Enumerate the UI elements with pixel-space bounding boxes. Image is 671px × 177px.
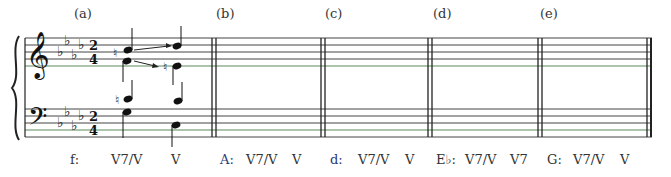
svg-text:♭: ♭ bbox=[78, 107, 85, 123]
svg-text:4: 4 bbox=[89, 123, 98, 138]
barlines bbox=[212, 38, 651, 137]
analysis-b-chord-2: V bbox=[292, 152, 301, 167]
time-signature: 24 24 bbox=[89, 38, 98, 138]
svg-text:♮: ♮ bbox=[113, 46, 117, 60]
analysis-a-chord-2: V bbox=[171, 152, 180, 167]
treble-staff bbox=[25, 38, 652, 66]
bass-clef-icon: 𝄢 bbox=[28, 102, 47, 137]
svg-text:♭: ♭ bbox=[78, 36, 85, 52]
analysis-d-key: E♭: bbox=[436, 152, 456, 167]
analysis-a-chord-1: V7/V bbox=[111, 152, 142, 167]
analysis-e-key: G: bbox=[547, 152, 562, 167]
svg-text:♭: ♭ bbox=[57, 114, 64, 130]
svg-text:2: 2 bbox=[89, 38, 98, 53]
svg-text:♮: ♮ bbox=[163, 60, 167, 74]
svg-text:♮: ♮ bbox=[115, 93, 119, 107]
treble-notes: ♮ ♮ bbox=[113, 26, 182, 85]
analysis-d-chord-2: V7 bbox=[510, 152, 528, 167]
svg-text:♭: ♭ bbox=[64, 32, 71, 48]
svg-text:♭: ♭ bbox=[71, 117, 78, 133]
analysis-e-chord-2: V bbox=[620, 152, 629, 167]
analysis-a-key: f: bbox=[70, 152, 79, 167]
analysis-e-chord-1: V7/V bbox=[573, 152, 604, 167]
analysis-c-key: d: bbox=[330, 152, 343, 167]
key-signature: ♭♭♭♭ ♭♭♭♭ bbox=[57, 32, 85, 133]
svg-text:♭: ♭ bbox=[64, 103, 71, 119]
analysis-c-chord-2: V bbox=[405, 152, 414, 167]
svg-text:2: 2 bbox=[89, 109, 98, 124]
brace-icon bbox=[12, 36, 19, 140]
treble-clef-icon: 𝄞 bbox=[26, 31, 50, 80]
analysis-c-chord-1: V7/V bbox=[358, 152, 389, 167]
analysis-b-chord-1: V7/V bbox=[246, 152, 277, 167]
svg-text:♭: ♭ bbox=[71, 46, 78, 62]
bass-staff bbox=[25, 109, 652, 137]
analysis-d-chord-1: V7/V bbox=[465, 152, 496, 167]
analysis-b-key: A: bbox=[220, 152, 234, 167]
svg-text:4: 4 bbox=[89, 52, 98, 67]
grand-staff: 𝄞 𝄢 ♭♭♭♭ ♭♭♭♭ 24 24 ♮ ♮ ♮ bbox=[0, 0, 671, 177]
svg-text:♭: ♭ bbox=[57, 43, 64, 59]
